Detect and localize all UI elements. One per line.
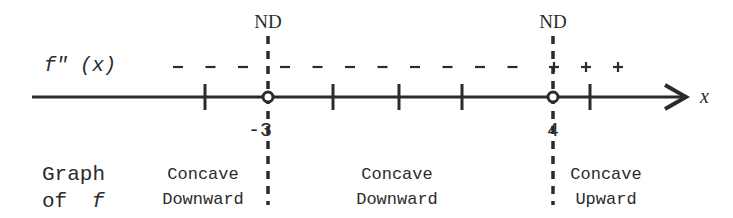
concavity-interval-3-line1: Concave: [570, 165, 641, 184]
plus-sign: [581, 62, 591, 72]
nd-label-4: ND: [539, 11, 566, 32]
concavity-interval-3-line2: Upward: [575, 190, 636, 209]
open-circle-4: [548, 92, 558, 102]
function-label: f" (x): [44, 54, 116, 77]
concavity-interval-1-line2: Downward: [162, 190, 244, 209]
axis-variable-label: x: [699, 85, 709, 107]
nd-label-neg3: ND: [254, 11, 281, 32]
row-label-of-f: of f: [42, 190, 106, 213]
sign-row: [173, 62, 623, 72]
plus-sign: [613, 62, 623, 72]
concavity-interval-2-line2: Downward: [356, 190, 438, 209]
row-label-graph: Graph: [42, 163, 105, 186]
concavity-interval-2-line1: Concave: [361, 165, 432, 184]
open-circle-neg3: [263, 92, 273, 102]
concavity-interval-1-line1: Concave: [167, 165, 238, 184]
plus-sign: [549, 62, 559, 72]
critical-value-4: 4: [547, 119, 559, 142]
critical-value-neg3: -3: [248, 119, 272, 142]
row-label-f: f: [92, 190, 106, 213]
sign-chart-diagram: x ND ND -3 4 f" (x) Graph of f Concave D…: [0, 0, 733, 218]
row-label-of: of: [42, 190, 67, 213]
